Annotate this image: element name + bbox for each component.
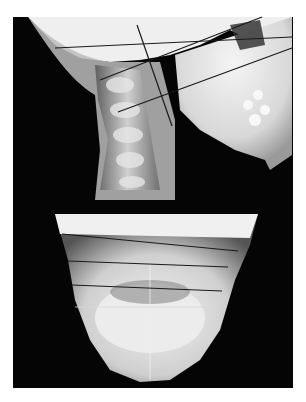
lateral-radiograph <box>28 17 292 200</box>
radiograph-figure <box>0 0 306 402</box>
frontal-radiograph <box>55 214 258 382</box>
